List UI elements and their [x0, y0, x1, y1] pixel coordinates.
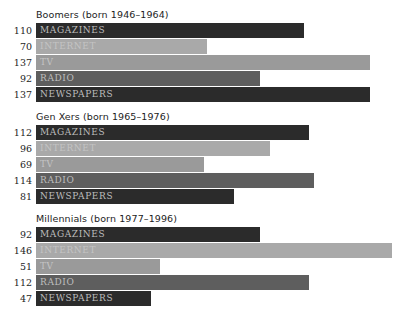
generation-group: Boomers (born 1946–1964)110MAGAZINES70IN…	[0, 0, 395, 102]
bar-rows: 112MAGAZINES96INTERNET69TV114RADIO81NEWS…	[0, 125, 395, 204]
bar-row: 92RADIO	[0, 71, 395, 86]
bar-row: 70INTERNET	[0, 39, 395, 54]
bar-radio	[36, 275, 309, 290]
bar-tv	[36, 157, 204, 172]
grouped-bar-chart: Boomers (born 1946–1964)110MAGAZINES70IN…	[0, 0, 395, 314]
bar-track: TV	[36, 157, 395, 172]
bar-row: 96INTERNET	[0, 141, 395, 156]
bar-value-label: 137	[0, 87, 32, 102]
bar-row: 137TV	[0, 55, 395, 70]
bar-value-label: 69	[0, 157, 32, 172]
bar-track: TV	[36, 55, 395, 70]
bar-value-label: 70	[0, 39, 32, 54]
bar-track: MAGAZINES	[36, 23, 395, 38]
bar-row: 51TV	[0, 259, 395, 274]
bar-tv	[36, 259, 160, 274]
bar-value-label: 92	[0, 227, 32, 242]
group-spacer	[0, 103, 395, 110]
bar-track: INTERNET	[36, 141, 395, 156]
bar-magazines	[36, 125, 309, 140]
bar-row: 81NEWSPAPERS	[0, 189, 395, 204]
bar-value-label: 47	[0, 291, 32, 306]
bar-track: MAGAZINES	[36, 125, 395, 140]
bar-value-label: 146	[0, 243, 32, 258]
bar-newspapers	[36, 291, 151, 306]
bar-value-label: 96	[0, 141, 32, 156]
bar-row: 69TV	[0, 157, 395, 172]
bar-track: INTERNET	[36, 243, 395, 258]
bar-track: MAGAZINES	[36, 227, 395, 242]
bar-tv	[36, 55, 370, 70]
bar-radio	[36, 71, 260, 86]
bar-row: 112MAGAZINES	[0, 125, 395, 140]
bar-row: 114RADIO	[0, 173, 395, 188]
bar-row: 137NEWSPAPERS	[0, 87, 395, 102]
bar-magazines	[36, 23, 304, 38]
top-spacer	[0, 0, 395, 8]
bar-track: NEWSPAPERS	[36, 291, 395, 306]
bar-newspapers	[36, 87, 370, 102]
bar-track: INTERNET	[36, 39, 395, 54]
bar-row: 146INTERNET	[0, 243, 395, 258]
bar-rows: 110MAGAZINES70INTERNET137TV92RADIO137NEW…	[0, 23, 395, 102]
bar-track: RADIO	[36, 173, 395, 188]
group-spacer	[0, 205, 395, 212]
bar-magazines	[36, 227, 260, 242]
bar-row: 47NEWSPAPERS	[0, 291, 395, 306]
bar-internet	[36, 141, 270, 156]
bar-track: NEWSPAPERS	[36, 189, 395, 204]
bar-row: 92MAGAZINES	[0, 227, 395, 242]
bar-value-label: 112	[0, 125, 32, 140]
generation-group: Gen Xers (born 1965–1976)112MAGAZINES96I…	[0, 103, 395, 204]
bar-value-label: 51	[0, 259, 32, 274]
bar-internet	[36, 39, 207, 54]
bar-row: 112RADIO	[0, 275, 395, 290]
generation-group: Millennials (born 1977–1996)92MAGAZINES1…	[0, 205, 395, 306]
bar-value-label: 112	[0, 275, 32, 290]
bar-internet	[36, 243, 392, 258]
bar-value-label: 110	[0, 23, 32, 38]
bar-track: NEWSPAPERS	[36, 87, 395, 102]
group-title: Millennials (born 1977–1996)	[0, 212, 395, 225]
bar-value-label: 137	[0, 55, 32, 70]
group-title: Gen Xers (born 1965–1976)	[0, 110, 395, 123]
bar-radio	[36, 173, 314, 188]
bar-track: RADIO	[36, 71, 395, 86]
bar-value-label: 81	[0, 189, 32, 204]
bar-rows: 92MAGAZINES146INTERNET51TV112RADIO47NEWS…	[0, 227, 395, 306]
bar-value-label: 92	[0, 71, 32, 86]
group-title: Boomers (born 1946–1964)	[0, 8, 395, 21]
bar-track: RADIO	[36, 275, 395, 290]
bar-value-label: 114	[0, 173, 32, 188]
bar-row: 110MAGAZINES	[0, 23, 395, 38]
bar-track: TV	[36, 259, 395, 274]
bar-newspapers	[36, 189, 234, 204]
